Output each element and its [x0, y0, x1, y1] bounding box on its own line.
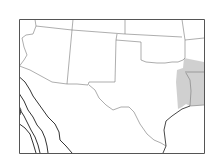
map-svg: [0, 0, 214, 164]
gulf-coastline: [163, 106, 190, 153]
state-border-line: [182, 20, 185, 59]
contour-line: [20, 109, 41, 153]
red-river-border: [141, 58, 185, 63]
map-container: [0, 0, 214, 164]
rio-grande-border: [89, 85, 166, 146]
arizona-west-border: [20, 26, 37, 66]
contour-line: [20, 124, 37, 153]
state-border-line: [36, 26, 182, 37]
state-border-line: [67, 30, 72, 84]
shaded-region: [176, 58, 204, 109]
state-border-line: [116, 34, 141, 60]
state-border-line: [20, 66, 68, 84]
contour-lines: [20, 77, 73, 153]
state-border-line: [72, 20, 73, 31]
state-border-line: [35, 20, 36, 27]
state-border-line: [185, 38, 204, 40]
state-border-line: [67, 40, 116, 85]
state-borders: [20, 20, 205, 107]
